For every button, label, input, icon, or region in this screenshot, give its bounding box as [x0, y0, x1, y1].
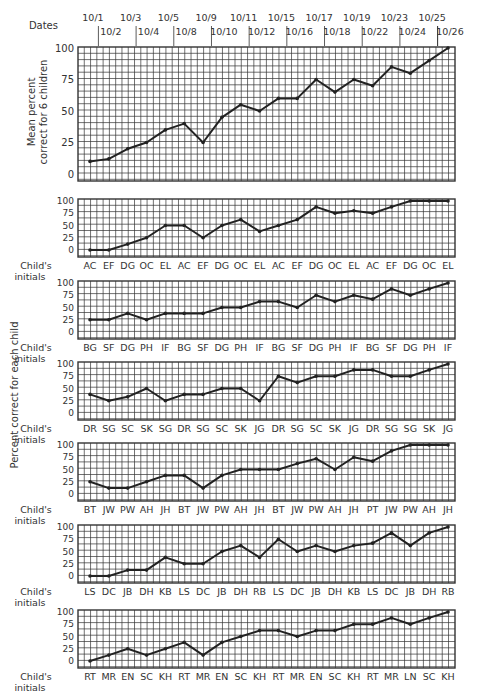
data-point — [314, 544, 318, 548]
initials-label: PW — [403, 504, 419, 515]
data-point — [145, 387, 149, 391]
initials-label: AH — [422, 504, 436, 515]
data-point — [314, 205, 318, 209]
date-label: 10/24 — [399, 26, 426, 37]
child-panel-grid-2 — [78, 281, 455, 339]
data-point — [164, 128, 168, 132]
data-point — [145, 318, 149, 322]
initials-label: KB — [159, 586, 172, 597]
initials-label: DG — [215, 260, 230, 271]
data-point — [333, 300, 337, 304]
data-point — [182, 312, 186, 316]
data-point — [446, 281, 450, 285]
date-label: 10/18 — [323, 26, 350, 37]
initials-label: SC — [140, 671, 153, 682]
initials-label: PH — [234, 342, 247, 353]
initials-label: DH — [234, 586, 248, 597]
data-point — [446, 610, 450, 614]
initials-label: JG — [348, 423, 359, 434]
data-point — [258, 629, 262, 633]
data-point — [333, 468, 337, 472]
child-series-line-4 — [90, 445, 448, 488]
child-ylabel: Percent correct for each child — [9, 322, 20, 469]
data-point — [409, 374, 413, 378]
initials-label: LS — [179, 586, 190, 597]
data-point — [107, 399, 111, 403]
data-point — [390, 374, 394, 378]
initials-label: AH — [234, 504, 248, 515]
child-panel-grid-5 — [78, 525, 455, 583]
data-point — [107, 574, 111, 578]
data-point — [409, 622, 413, 626]
date-label: 10/4 — [138, 26, 159, 37]
data-point — [145, 653, 149, 657]
initials-label: SG — [404, 423, 417, 434]
y-tick-label: 0 — [68, 656, 74, 666]
data-point — [182, 562, 186, 566]
initials-label: OC — [328, 260, 342, 271]
data-point — [107, 318, 111, 322]
child-series-line-1 — [90, 201, 448, 250]
child-panel-grid-4 — [78, 443, 455, 501]
initials-label: JH — [348, 504, 359, 515]
data-point — [427, 368, 431, 372]
initials-label: SK — [140, 423, 153, 434]
initials-label: EN — [121, 671, 134, 682]
data-point — [409, 544, 413, 548]
date-label: 10/9 — [195, 12, 216, 23]
mean-chart-grid — [78, 47, 455, 181]
dates-axis-label: Dates — [29, 20, 58, 31]
initials-label: DG — [403, 342, 418, 353]
initials-label: MR — [196, 671, 211, 682]
data-point — [446, 199, 450, 203]
initials-caption: initials — [14, 271, 45, 282]
date-label: 10/5 — [158, 12, 179, 23]
y-tick-label: 0 — [68, 408, 74, 418]
data-point — [182, 224, 186, 228]
initials-label: PW — [214, 504, 230, 515]
y-tick-label: 50 — [63, 547, 75, 557]
data-point — [126, 395, 130, 399]
data-point — [277, 97, 281, 101]
initials-label: KH — [441, 671, 454, 682]
mean-series-line — [90, 48, 448, 161]
initials-label: JH — [442, 504, 453, 515]
date-label: 10/25 — [418, 12, 445, 23]
data-point — [446, 46, 450, 50]
data-point — [220, 116, 224, 120]
initials-caption: initials — [14, 515, 45, 526]
initials-label: DG — [309, 260, 324, 271]
initials-label: DC — [384, 586, 398, 597]
initials-label: AH — [140, 504, 154, 515]
initials-label: EL — [254, 260, 266, 271]
data-point — [201, 236, 205, 240]
initials-label: SC — [234, 671, 247, 682]
initials-label: JB — [310, 586, 320, 597]
initials-label: RB — [253, 586, 266, 597]
data-point — [220, 641, 224, 645]
data-point — [333, 629, 337, 633]
initials-label: KH — [253, 671, 266, 682]
initials-label: OC — [422, 260, 436, 271]
initials-label: PH — [329, 342, 342, 353]
initials-label: KH — [159, 671, 172, 682]
initials-label: DG — [120, 342, 135, 353]
initials-label: LS — [367, 586, 378, 597]
initials-label: DC — [196, 586, 210, 597]
data-point — [427, 199, 431, 203]
data-point — [126, 647, 130, 651]
y-tick-label: 75 — [63, 534, 74, 544]
data-point — [88, 318, 92, 322]
initials-label: JW — [290, 504, 304, 515]
initials-label: EF — [386, 260, 397, 271]
initials-label: EL — [442, 260, 454, 271]
data-point — [88, 248, 92, 252]
initials-label: LS — [273, 586, 284, 597]
initials-label: EF — [292, 260, 303, 271]
data-point — [295, 635, 299, 639]
date-label: 10/12 — [248, 26, 275, 37]
initials-label: EL — [348, 260, 360, 271]
initials-label: SC — [329, 671, 342, 682]
y-tick-label: 25 — [61, 137, 74, 148]
initials-label: IF — [255, 342, 263, 353]
